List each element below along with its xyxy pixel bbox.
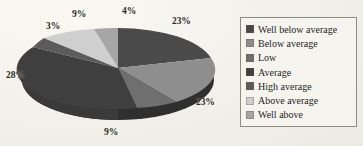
pie-chart-graphic xyxy=(0,0,236,146)
legend: Well below average Below average Low Ave… xyxy=(240,17,357,127)
legend-item-well-below-average: Well below average xyxy=(246,22,352,36)
pie-label-top-left: 9% xyxy=(72,9,86,19)
pie-label-top: 4% xyxy=(122,6,136,16)
legend-label: Below average xyxy=(258,38,318,49)
legend-item-high-average: High average xyxy=(246,79,352,93)
legend-swatch-icon xyxy=(246,82,254,90)
legend-item-below-average: Below average xyxy=(246,36,352,50)
pie-chart: 23% 23% 9% 28% 3% 9% 4% xyxy=(0,0,236,146)
legend-label: Average xyxy=(258,67,291,78)
legend-swatch-icon xyxy=(246,25,254,33)
legend-swatch-icon xyxy=(246,68,254,76)
pie-slices-top-face xyxy=(17,28,216,109)
pie-label-bottom: 9% xyxy=(104,127,118,137)
pie-label-right: 23% xyxy=(196,97,215,107)
legend-label: Low xyxy=(258,52,276,63)
pie-label-left: 28% xyxy=(6,70,25,80)
legend-swatch-icon xyxy=(246,54,254,62)
pie-label-upper-left: 3% xyxy=(46,21,60,31)
legend-label: Well above xyxy=(258,109,303,120)
legend-swatch-icon xyxy=(246,111,254,119)
pie-label-top-right: 23% xyxy=(172,16,191,26)
legend-label: Well below average xyxy=(258,24,337,35)
legend-item-above-average: Above average xyxy=(246,93,352,107)
legend-label: Above average xyxy=(258,95,318,106)
legend-item-well-above: Well above xyxy=(246,108,352,122)
legend-item-low: Low xyxy=(246,51,352,65)
legend-swatch-icon xyxy=(246,39,254,47)
legend-swatch-icon xyxy=(246,97,254,105)
legend-item-average: Average xyxy=(246,65,352,79)
legend-label: High average xyxy=(258,81,312,92)
